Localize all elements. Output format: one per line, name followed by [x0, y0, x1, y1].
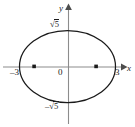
vertex-right-label: 3 [115, 68, 120, 77]
radical-overbar: 5 [53, 101, 58, 111]
x-axis-label: x [127, 64, 131, 73]
y-axis-label: y [59, 4, 63, 13]
covertex-top-label: √5 [50, 19, 59, 29]
vertex-left-label: –3 [10, 68, 19, 77]
radical-overbar: 5 [54, 19, 59, 29]
y-axis-arrow-icon [65, 4, 72, 11]
ellipse-figure: y x √5 –√5 –3 0 3 [0, 0, 135, 127]
focus-point-right [94, 65, 98, 69]
origin-label: 0 [58, 68, 63, 77]
y-axis [65, 4, 72, 125]
x-axis [3, 64, 128, 71]
covertex-bottom-label: –√5 [45, 101, 59, 111]
radical-sign-icon: √5 [50, 19, 59, 29]
focus-point-left [32, 65, 36, 69]
radical-sign-icon: √5 [49, 101, 58, 111]
ellipse-graph-svg [0, 0, 135, 127]
